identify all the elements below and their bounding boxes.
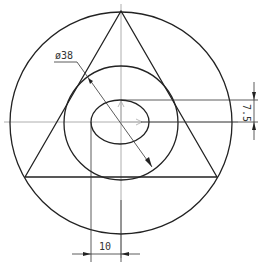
diameter-leader-line: [77, 62, 152, 167]
vertical-offset-label: 7.5: [241, 104, 251, 122]
horizontal-offset-label: 10: [99, 242, 111, 252]
diameter-label: ø38: [55, 51, 73, 61]
technical-drawing: [0, 0, 262, 274]
vertical-dim-arrow-top-icon: [252, 92, 256, 100]
horizontal-dim-arrow-right-icon: [121, 252, 129, 256]
horizontal-dim-arrow-left-icon: [83, 252, 91, 256]
vertical-dim-arrow-bottom-icon: [252, 122, 256, 130]
drawing-canvas: ø38 7.5 10: [0, 0, 262, 274]
